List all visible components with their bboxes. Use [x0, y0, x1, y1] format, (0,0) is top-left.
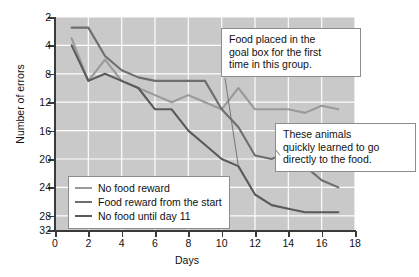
y-tick-label: 20	[27, 154, 51, 164]
legend-swatch-icon	[75, 215, 92, 217]
x-tick-label: 4	[110, 238, 134, 249]
x-axis-label: Days	[175, 254, 199, 266]
y-tick-label: 8	[27, 69, 51, 79]
y-axis-label: Number of errors	[14, 44, 26, 164]
legend-item-no-food-until-day-11: No food until day 11	[75, 209, 222, 223]
legend-label: No food reward	[98, 182, 170, 194]
y-tick-label: 4	[27, 40, 51, 50]
annotation-quickly-learned: These animals quickly learned to go dire…	[275, 123, 416, 172]
y-tick-label: 32	[27, 225, 51, 235]
annotation-line: Food placed in the	[229, 33, 353, 46]
x-tick-label: 10	[210, 238, 234, 249]
y-tick-label: 16	[27, 126, 51, 136]
x-tick-label: 18	[343, 238, 367, 249]
annotation-line: time in this group.	[229, 58, 353, 71]
legend: No food reward Food reward from the star…	[68, 176, 230, 229]
annotation-line: goal box for the first	[229, 46, 353, 59]
chart-figure: 322824201612842024681012141618 Number of…	[0, 0, 419, 277]
legend-swatch-icon	[75, 201, 92, 203]
legend-label: No food until day 11	[98, 210, 191, 222]
x-axis-line	[54, 230, 356, 232]
x-tick-label: 2	[76, 238, 100, 249]
x-tick-label: 14	[276, 238, 300, 249]
x-tick-label: 6	[143, 238, 167, 249]
annotation-line: quickly learned to go	[283, 141, 408, 154]
x-tick-label: 16	[310, 238, 334, 249]
annotation-line: directly to the food.	[283, 153, 408, 166]
annotation-line: These animals	[283, 128, 408, 141]
y-tick-label: 24	[27, 182, 51, 192]
legend-item-food-reward-from-start: Food reward from the start	[75, 195, 222, 209]
x-tick-label: 0	[43, 238, 67, 249]
y-tick-label: 12	[27, 97, 51, 107]
x-tick-label: 12	[243, 238, 267, 249]
y-tick-label: 2	[27, 12, 51, 22]
legend-swatch-icon	[75, 187, 92, 189]
legend-item-no-food-reward: No food reward	[75, 181, 222, 195]
annotation-food-placed: Food placed in the goal box for the firs…	[221, 28, 361, 77]
legend-label: Food reward from the start	[98, 196, 222, 208]
y-axis-line	[54, 17, 56, 231]
y-tick-label: 28	[27, 211, 51, 221]
x-tick-label: 8	[176, 238, 200, 249]
